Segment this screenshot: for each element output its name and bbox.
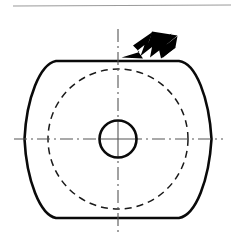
technical-drawing-svg xyxy=(0,0,236,246)
technical-drawing-canvas xyxy=(0,0,236,246)
